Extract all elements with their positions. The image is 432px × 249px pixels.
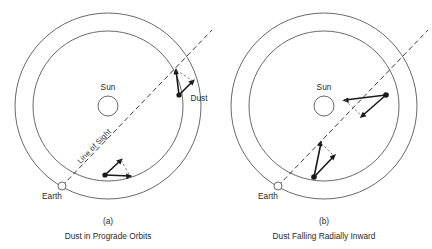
sun-circle-b [314,96,334,116]
earth-circle-b [274,182,282,190]
line-of-sight-label-a: Line of Sight [75,127,113,166]
figure-root: Sun Line of Sight Earth Dust [0,0,432,249]
outer-crossing-vectors-b [342,92,388,118]
inner-construction-line-b [321,143,334,156]
panel-letter-a: (a) [103,216,113,226]
sun-label-a: Sun [101,82,116,92]
outer-infall-arrow-b [345,95,386,100]
inner-construction-line-a [121,160,130,176]
sun-label-b: Sun [317,82,332,92]
inner-crossing-vectors-b [311,140,336,179]
panel-letter-b: (b) [319,216,329,226]
panel-a: Sun Line of Sight Earth Dust [0,0,216,249]
sun-circle-a [98,96,118,116]
panel-caption-a: Dust in Prograde Orbits [65,231,152,241]
earth-circle-a [58,182,66,190]
panel-b: Sun Earth (b) Dust Falling Radi [216,0,432,249]
panel-caption-b: Dust Falling Radially Inward [273,231,376,241]
earth-label-b: Earth [258,191,278,201]
inner-crossing-vectors-a [102,158,132,179]
earth-label-a: Earth [42,191,62,201]
dust-label-a: Dust [190,93,208,103]
